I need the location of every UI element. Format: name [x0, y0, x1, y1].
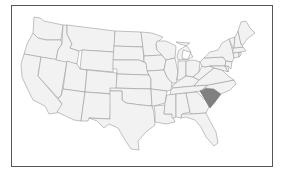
- state-south-dakota[interactable]: [113, 46, 144, 62]
- state-wyoming[interactable]: [80, 50, 114, 72]
- state-nebraska[interactable]: [113, 60, 149, 75]
- state-michigan[interactable]: [176, 42, 193, 60]
- state-montana[interactable]: [67, 25, 115, 52]
- us-map: [0, 0, 288, 181]
- state-maine[interactable]: [238, 21, 255, 45]
- state-new-mexico[interactable]: [81, 92, 111, 121]
- state-iowa[interactable]: [144, 55, 166, 71]
- state-rhode-island[interactable]: [239, 52, 241, 57]
- state-kansas[interactable]: [116, 74, 151, 89]
- state-pennsylvania[interactable]: [200, 57, 226, 67]
- state-arkansas[interactable]: [151, 89, 167, 106]
- state-washington[interactable]: [33, 17, 63, 40]
- state-florida[interactable]: [181, 113, 218, 146]
- state-north-dakota[interactable]: [114, 31, 143, 47]
